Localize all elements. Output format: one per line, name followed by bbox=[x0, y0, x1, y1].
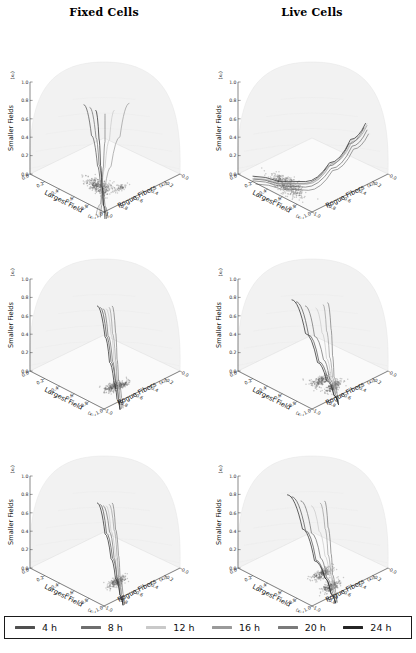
y-tick-label: 0.6 bbox=[229, 511, 236, 516]
x1-tick-label: 1.0 bbox=[95, 605, 104, 613]
figure-root: Fixed Cells Live Cells 1.00.80.60.40.20.… bbox=[0, 0, 416, 653]
y-tick-label: 0.8 bbox=[21, 98, 28, 103]
plot-panel: 1.00.80.60.40.20.00.00.20.40.60.81.01.00… bbox=[0, 22, 208, 219]
legend-item[interactable]: 24 h bbox=[339, 622, 405, 633]
plot-panel: 1.00.80.60.40.20.00.00.20.40.60.81.01.00… bbox=[0, 219, 208, 416]
legend-item[interactable]: 16 h bbox=[208, 622, 274, 633]
legend-label: 24 h bbox=[370, 622, 391, 633]
y-tick-label: 0.2 bbox=[21, 153, 28, 158]
axis-title-smaller-fields-symbol: (x₂) bbox=[10, 465, 15, 473]
x3-tick-label: 1.0 bbox=[105, 605, 114, 613]
x3-tick-label: 1.0 bbox=[313, 605, 322, 613]
x1-tick-label: 0.2 bbox=[36, 575, 45, 583]
legend-item[interactable]: 8 h bbox=[77, 622, 143, 633]
plot-area bbox=[237, 62, 388, 212]
column-title-fixed-cells: Fixed Cells bbox=[0, 6, 208, 19]
y-tick-label: 0.8 bbox=[229, 295, 236, 300]
x1-tick-label: 0.2 bbox=[244, 575, 253, 583]
y-tick-label: 0.6 bbox=[229, 314, 236, 319]
simplex-3d-plot: 1.00.80.60.40.20.00.00.20.40.60.81.01.00… bbox=[0, 219, 208, 416]
y-tick-label: 0.8 bbox=[21, 295, 28, 300]
axis-title-smaller-fields-text: Smaller Fields bbox=[7, 499, 15, 545]
y-tick-label: 1.0 bbox=[229, 80, 236, 85]
plot-area bbox=[237, 259, 388, 409]
plot-panel: 1.00.80.60.40.20.00.00.20.40.60.81.01.00… bbox=[0, 416, 208, 613]
y-tick-label: 1.0 bbox=[229, 277, 236, 282]
x1-tick-label: 1.0 bbox=[303, 408, 312, 416]
y-tick-label: 1.0 bbox=[21, 474, 28, 479]
y-tick-label: 0.4 bbox=[21, 332, 28, 337]
axis-title-smaller-fields-symbol: (x₂) bbox=[10, 268, 15, 276]
plot-panel: 1.00.80.60.40.20.00.00.20.40.60.81.01.00… bbox=[208, 22, 416, 219]
simplex-3d-plot: 1.00.80.60.40.20.00.00.20.40.60.81.01.00… bbox=[208, 416, 416, 613]
simplex-3d-plot: 1.00.80.60.40.20.00.00.20.40.60.81.01.00… bbox=[208, 219, 416, 416]
legend-item[interactable]: 12 h bbox=[142, 622, 208, 633]
legend-label: 8 h bbox=[108, 622, 123, 633]
x1-tick-label: 0.2 bbox=[36, 181, 45, 189]
x1-tick-label: 0.2 bbox=[244, 181, 253, 189]
plot-area bbox=[237, 456, 388, 606]
axis-title-smaller-fields: Smaller Fields(x₂) bbox=[7, 465, 15, 545]
y-tick-label: 0.8 bbox=[229, 98, 236, 103]
y-tick-label: 0.6 bbox=[21, 117, 28, 122]
plot-panel: 1.00.80.60.40.20.00.00.20.40.60.81.01.00… bbox=[208, 416, 416, 613]
legend-row: 4 h8 h12 h16 h20 h24 h bbox=[5, 617, 411, 638]
x1-tick-label: 0.2 bbox=[36, 378, 45, 386]
x3-tick-label: 1.0 bbox=[313, 211, 322, 219]
plot-area bbox=[29, 259, 180, 409]
simplex-3d-plot: 1.00.80.60.40.20.00.00.20.40.60.81.01.00… bbox=[0, 416, 208, 613]
legend-swatch-line-icon bbox=[146, 626, 166, 629]
legend-label: 20 h bbox=[305, 622, 326, 633]
axis-title-smaller-fields: Smaller Fields(x₂) bbox=[7, 71, 15, 151]
y-tick-label: 0.4 bbox=[229, 332, 236, 337]
axis-title-smaller-fields: Smaller Fields(x₂) bbox=[215, 465, 223, 545]
legend-label: 12 h bbox=[173, 622, 194, 633]
axis-title-smaller-fields: Smaller Fields(x₂) bbox=[215, 71, 223, 151]
axis-title-smaller-fields-symbol: (x₂) bbox=[218, 465, 223, 473]
y-tick-label: 0.4 bbox=[229, 529, 236, 534]
axis-title-smaller-fields-text: Smaller Fields bbox=[7, 105, 15, 151]
y-tick-label: 0.4 bbox=[21, 135, 28, 140]
axis-title-smaller-fields-symbol: (x₂) bbox=[10, 71, 15, 79]
y-tick-label: 0.8 bbox=[21, 492, 28, 497]
y-tick-label: 1.0 bbox=[21, 80, 28, 85]
y-tick-label: 0.2 bbox=[229, 547, 236, 552]
axis-title-smaller-fields-text: Smaller Fields bbox=[7, 302, 15, 348]
y-tick-label: 0.2 bbox=[21, 547, 28, 552]
y-tick-label: 0.6 bbox=[21, 511, 28, 516]
legend: 4 h8 h12 h16 h20 h24 h bbox=[4, 616, 412, 639]
simplex-3d-plot: 1.00.80.60.40.20.00.00.20.40.60.81.01.00… bbox=[208, 22, 416, 219]
y-tick-label: 1.0 bbox=[229, 474, 236, 479]
x3-tick-label: 0.0 bbox=[181, 370, 190, 378]
x3-tick-label: 1.0 bbox=[105, 211, 114, 219]
legend-swatch-line-icon bbox=[15, 626, 35, 629]
y-tick-label: 0.4 bbox=[229, 135, 236, 140]
simplex-3d-plot: 1.00.80.60.40.20.00.00.20.40.60.81.01.00… bbox=[0, 22, 208, 219]
legend-item[interactable]: 20 h bbox=[274, 622, 340, 633]
axis-title-smaller-fields: Smaller Fields(x₂) bbox=[7, 268, 15, 348]
legend-label: 4 h bbox=[42, 622, 57, 633]
legend-swatch-line-icon bbox=[81, 626, 101, 629]
x1-tick-label: 1.0 bbox=[95, 408, 104, 416]
legend-swatch-line-icon bbox=[343, 626, 363, 629]
y-tick-label: 0.4 bbox=[21, 529, 28, 534]
column-title-live-cells: Live Cells bbox=[208, 6, 416, 19]
x3-tick-label: 0.0 bbox=[389, 567, 398, 575]
x3-tick-label: 0.0 bbox=[389, 173, 398, 181]
y-tick-label: 0.2 bbox=[229, 350, 236, 355]
axis-title-smaller-fields-text: Smaller Fields bbox=[215, 105, 223, 151]
plot-panel: 1.00.80.60.40.20.00.00.20.40.60.81.01.00… bbox=[208, 219, 416, 416]
legend-swatch-line-icon bbox=[212, 626, 232, 629]
legend-swatch-line-icon bbox=[278, 626, 298, 629]
y-tick-label: 1.0 bbox=[21, 277, 28, 282]
axis-title-smaller-fields: Smaller Fields(x₂) bbox=[215, 268, 223, 348]
x3-tick-label: 1.0 bbox=[105, 408, 114, 416]
x3-tick-label: 1.0 bbox=[313, 408, 322, 416]
y-tick-label: 0.2 bbox=[21, 350, 28, 355]
x3-tick-label: 0.0 bbox=[181, 173, 190, 181]
y-tick-label: 0.6 bbox=[229, 117, 236, 122]
axis-title-smaller-fields-symbol: (x₂) bbox=[218, 71, 223, 79]
axis-title-smaller-fields-text: Smaller Fields bbox=[215, 499, 223, 545]
legend-item[interactable]: 4 h bbox=[11, 622, 77, 633]
y-tick-label: 0.8 bbox=[229, 492, 236, 497]
